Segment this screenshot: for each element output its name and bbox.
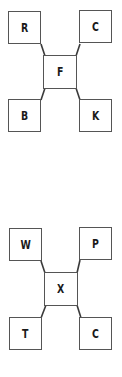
letter-diagram-2: W P X T C — [0, 217, 122, 367]
node-label: C — [92, 21, 99, 33]
node-label: K — [92, 110, 99, 122]
node-center: F — [43, 55, 77, 89]
node-label: T — [22, 328, 28, 340]
node-top-left: R — [8, 11, 41, 44]
node-bottom-right: K — [79, 99, 112, 132]
node-bottom-left: T — [9, 317, 42, 350]
node-label: X — [57, 283, 64, 295]
node-label: C — [92, 328, 99, 340]
node-center: X — [44, 272, 78, 306]
node-bottom-right: C — [79, 317, 112, 350]
node-bottom-left: B — [8, 99, 41, 132]
node-label: P — [92, 238, 99, 250]
node-label: W — [20, 239, 30, 251]
node-label: R — [21, 22, 28, 34]
letter-diagram-1: R C F B K — [0, 0, 122, 150]
node-top-right: P — [79, 227, 112, 260]
node-label: F — [57, 66, 63, 78]
node-top-left: W — [9, 228, 42, 261]
node-top-right: C — [79, 10, 112, 43]
node-label: B — [21, 110, 28, 122]
